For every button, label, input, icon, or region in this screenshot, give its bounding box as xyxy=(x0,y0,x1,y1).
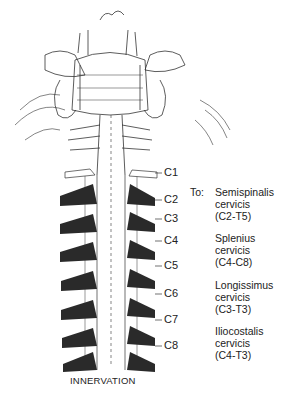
muscle-range: (C4-C8) xyxy=(215,256,255,268)
muscle-range: (C2-T5) xyxy=(215,210,274,222)
muscle-semispinalis-cervicis: Semispinalis cervicis (C2-T5) xyxy=(215,186,274,222)
level-label-c7: C7 xyxy=(164,313,178,325)
muscle-longissimus-cervicis: Longissimus cervicis (C3-T3) xyxy=(215,279,273,315)
muscle-part: cervicis xyxy=(215,244,255,256)
to-label: To: xyxy=(190,186,204,198)
level-label-c3: C3 xyxy=(164,212,178,224)
muscle-part: cervicis xyxy=(215,337,263,349)
level-label-c8: C8 xyxy=(164,339,178,351)
level-label-c2: C2 xyxy=(164,193,178,205)
muscle-splenius-cervicis: Splenius cervicis (C4-C8) xyxy=(215,232,255,268)
innervation-figure: C1 C2 C3 C4 C5 C6 C7 C8 To: Semispinalis… xyxy=(0,0,283,398)
muscle-name: Longissimus xyxy=(215,279,273,291)
level-label-c4: C4 xyxy=(164,234,178,246)
level-label-c5: C5 xyxy=(164,259,178,271)
muscle-iliocostalis-cervicis: Iliocostalis cervicis (C4-T3) xyxy=(215,325,263,361)
muscle-part: cervicis xyxy=(215,291,273,303)
muscle-range: (C4-T3) xyxy=(215,349,263,361)
level-label-c6: C6 xyxy=(164,287,178,299)
muscle-name: Iliocostalis xyxy=(215,325,263,337)
level-label-c1: C1 xyxy=(164,166,178,178)
muscle-name: Splenius xyxy=(215,232,255,244)
muscle-range: (C3-T3) xyxy=(215,303,273,315)
muscle-part: cervicis xyxy=(215,198,274,210)
figure-caption: INNERVATION xyxy=(70,375,136,386)
muscle-name: Semispinalis xyxy=(215,186,274,198)
